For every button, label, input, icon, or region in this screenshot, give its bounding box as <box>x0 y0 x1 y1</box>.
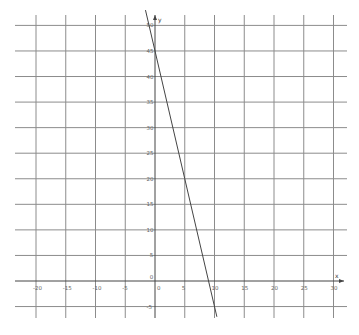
x-axis-label: x <box>335 272 339 279</box>
x-tick-label: 10 <box>212 285 219 291</box>
y-tick-label: 15 <box>146 201 153 207</box>
x-tick-label: 5 <box>182 285 186 291</box>
line-chart: x y -20-15-10-5051015202530-505101520253… <box>0 0 359 335</box>
axes: x y <box>15 15 344 318</box>
data-line <box>145 10 216 317</box>
y-tick-label: 35 <box>146 99 153 105</box>
x-tick-label: -20 <box>33 285 42 291</box>
y-tick-label: 30 <box>146 125 153 131</box>
y-tick-label: 20 <box>146 176 153 182</box>
y-tick-label: 45 <box>146 48 153 54</box>
x-tick-label: 20 <box>271 285 278 291</box>
grid <box>15 15 347 318</box>
y-tick-label: 0 <box>150 274 154 280</box>
x-tick-label: 0 <box>157 285 161 291</box>
x-tick-label: 15 <box>241 285 248 291</box>
x-tick-label: -5 <box>122 285 128 291</box>
y-tick-label: 5 <box>150 252 154 258</box>
tick-labels: -20-15-10-5051015202530-5051015202530354… <box>33 22 338 309</box>
y-axis-label: y <box>158 16 162 24</box>
x-tick-label: -10 <box>93 285 102 291</box>
series <box>145 10 216 317</box>
x-tick-label: 25 <box>301 285 308 291</box>
y-tick-label: 50 <box>146 22 153 28</box>
x-tick-label: 30 <box>331 285 338 291</box>
y-tick-label: -5 <box>146 304 152 310</box>
y-tick-label: 10 <box>146 227 153 233</box>
y-axis-arrow-icon <box>153 15 157 20</box>
y-tick-label: 25 <box>146 150 153 156</box>
x-axis-arrow-icon <box>339 279 344 283</box>
y-tick-label: 40 <box>146 74 153 80</box>
x-tick-label: -15 <box>63 285 72 291</box>
